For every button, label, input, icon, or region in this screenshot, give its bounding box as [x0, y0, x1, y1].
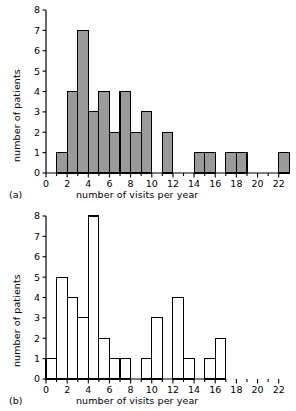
y-tick-label: 4: [34, 292, 40, 303]
y-tick-label: 5: [34, 272, 40, 283]
y-tick-label: 1: [34, 353, 40, 364]
y-axis-label-b: number of patients: [11, 274, 22, 367]
histogram-bar: [141, 112, 152, 173]
histogram-bar: [46, 359, 57, 379]
y-tick-label: 2: [34, 127, 40, 138]
x-tick-label: 10: [146, 384, 158, 395]
x-tick-label: 6: [106, 384, 112, 395]
y-tick-label: 3: [34, 312, 40, 323]
histogram-a-plot: 0123456780246810121416182022: [0, 0, 296, 205]
histogram-bar: [141, 359, 152, 379]
histogram-bar: [78, 318, 89, 379]
x-tick-label: 20: [252, 384, 264, 395]
x-tick-label: 4: [85, 178, 91, 189]
y-tick-label: 8: [34, 210, 40, 221]
histogram-bar: [226, 153, 237, 173]
histogram-bar: [67, 92, 78, 174]
x-tick-label: 14: [188, 178, 200, 189]
y-tick-label: 0: [34, 373, 40, 384]
x-tick-label: 12: [167, 384, 179, 395]
panel-a: 0123456780246810121416182022 number of p…: [0, 0, 296, 205]
y-tick-label: 4: [34, 86, 40, 97]
histogram-bar: [120, 359, 131, 379]
x-tick-label: 16: [209, 384, 221, 395]
y-tick-label: 2: [34, 333, 40, 344]
histogram-bar: [131, 132, 142, 173]
histogram-bar: [184, 359, 195, 379]
panel-b: 0123456780246810121416182022 number of p…: [0, 205, 296, 411]
y-tick-label: 8: [34, 4, 40, 15]
histogram-bar: [88, 216, 99, 379]
histogram-bar: [205, 359, 216, 379]
x-tick-label: 0: [43, 178, 49, 189]
y-tick-label: 5: [34, 66, 40, 77]
histogram-bar: [215, 338, 226, 379]
x-tick-label: 12: [167, 178, 179, 189]
x-tick-label: 2: [64, 178, 70, 189]
y-tick-label: 1: [34, 147, 40, 158]
y-tick-label: 0: [34, 167, 40, 178]
histogram-bar: [57, 153, 68, 173]
histogram-bar: [120, 92, 131, 174]
histogram-bar: [67, 298, 78, 380]
x-tick-label: 2: [64, 384, 70, 395]
histogram-bar: [236, 153, 247, 173]
panel-label-a: (a): [9, 189, 22, 200]
x-tick-label: 0: [43, 384, 49, 395]
figure-two-histograms: 0123456780246810121416182022 number of p…: [0, 0, 296, 411]
y-tick-label: 7: [34, 231, 40, 242]
histogram-bar: [88, 112, 99, 173]
histogram-bar: [194, 153, 205, 173]
histogram-bar: [99, 338, 110, 379]
x-tick-label: 8: [128, 178, 134, 189]
x-tick-label: 18: [230, 384, 242, 395]
y-tick-label: 6: [34, 45, 40, 56]
y-axis-label-a: number of patients: [11, 69, 22, 162]
x-tick-label: 10: [146, 178, 158, 189]
histogram-bar: [279, 153, 290, 173]
histogram-bar: [78, 30, 89, 173]
histogram-b-plot: 0123456780246810121416182022: [0, 205, 296, 411]
x-tick-label: 8: [128, 384, 134, 395]
bars-group: [46, 216, 226, 379]
x-tick-label: 22: [273, 178, 285, 189]
y-tick-label: 6: [34, 251, 40, 262]
x-tick-label: 4: [85, 384, 91, 395]
x-tick-label: 18: [230, 178, 242, 189]
x-tick-label: 20: [252, 178, 264, 189]
x-axis-label-b: number of visits per year: [76, 395, 198, 406]
histogram-bar: [57, 277, 68, 379]
histogram-bar: [99, 92, 110, 174]
histogram-bar: [109, 132, 120, 173]
x-tick-label: 16: [209, 178, 221, 189]
x-tick-label: 14: [188, 384, 200, 395]
histogram-bar: [109, 359, 120, 379]
histogram-bar: [152, 318, 163, 379]
y-tick-label: 3: [34, 106, 40, 117]
y-tick-label: 7: [34, 25, 40, 36]
x-tick-label: 22: [273, 384, 285, 395]
histogram-bar: [205, 153, 216, 173]
panel-label-b: (b): [9, 395, 22, 406]
histogram-bar: [173, 298, 184, 380]
bars-group: [57, 30, 290, 173]
x-axis-label-a: number of visits per year: [76, 189, 198, 200]
x-tick-label: 6: [106, 178, 112, 189]
histogram-bar: [162, 132, 173, 173]
